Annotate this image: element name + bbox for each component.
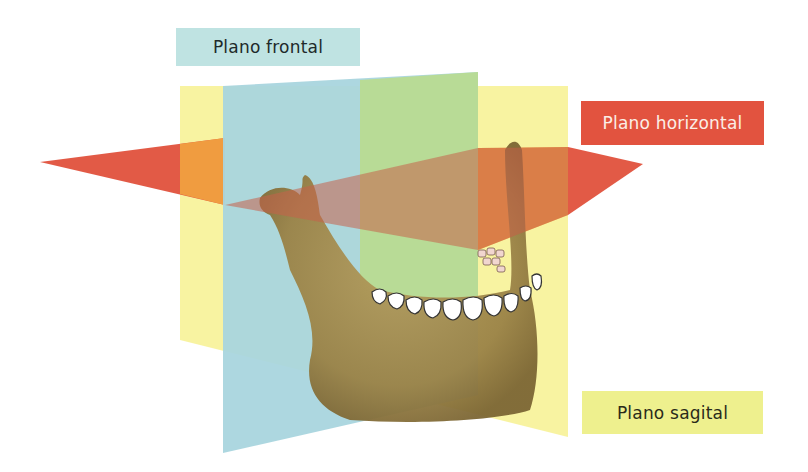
diagram-stage: Plano frontal Plano horizontal Plano sag… bbox=[0, 0, 808, 472]
horizontal-plane-label: Plano horizontal bbox=[581, 101, 764, 145]
horizontal-plane-overlap-left bbox=[180, 138, 225, 205]
sagittal-plane-label: Plano sagital bbox=[582, 391, 763, 434]
horizontal-plane-right bbox=[568, 147, 643, 215]
frontal-plane-label: Plano frontal bbox=[176, 28, 360, 66]
